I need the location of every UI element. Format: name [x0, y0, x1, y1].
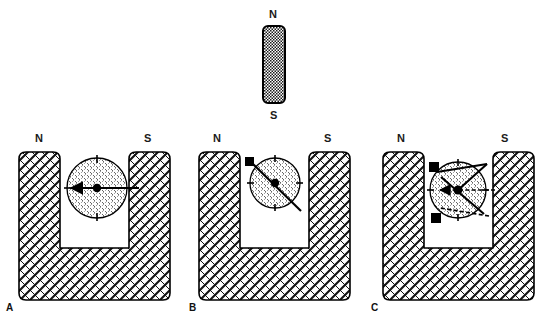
panel-c-north-label: N — [397, 133, 405, 144]
compass-a — [64, 155, 139, 221]
bar-magnet-north-label: N — [269, 9, 277, 20]
magnet-compass-figure — [0, 0, 537, 322]
compass-pivot-a — [93, 184, 101, 192]
panel-a-north-label: N — [35, 133, 43, 144]
compass-b — [245, 155, 303, 211]
needle-head-square-upper-c — [429, 162, 439, 172]
panel-b-north-label: N — [213, 133, 221, 144]
panel-c — [383, 152, 534, 300]
panel-c-letter: C — [371, 303, 378, 313]
bar-magnet-body — [263, 26, 285, 103]
compass-pivot-b — [271, 179, 279, 187]
needle-head-square-b — [245, 157, 254, 166]
needle-head-square-lower-c — [431, 213, 441, 223]
panel-b — [199, 152, 350, 300]
panel-a-letter: A — [6, 303, 13, 313]
panel-a — [19, 152, 170, 300]
bar-magnet-group — [263, 26, 285, 103]
panel-b-south-label: S — [324, 133, 331, 144]
compass-pivot-c — [454, 186, 463, 195]
compass-c — [427, 159, 495, 223]
panel-c-south-label: S — [501, 133, 508, 144]
bar-magnet-south-label: S — [270, 110, 277, 121]
figure-canvas: N S N S A N S B N S C — [0, 0, 537, 322]
panel-a-south-label: S — [144, 133, 151, 144]
panel-b-letter: B — [189, 303, 196, 313]
